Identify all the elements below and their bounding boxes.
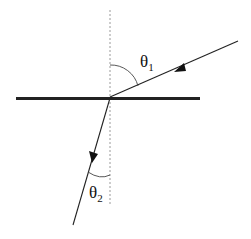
- theta1-label: θ1: [140, 52, 154, 73]
- refracted-ray: [73, 98, 110, 225]
- refraction-diagram: θ1 θ2: [0, 0, 251, 239]
- theta2-arc: [88, 172, 110, 177]
- incident-ray: [110, 41, 238, 97]
- incident-arrow-icon: [174, 63, 186, 72]
- refracted-arrow-icon: [89, 151, 98, 163]
- theta1-arc: [110, 65, 138, 86]
- theta2-label: θ2: [89, 183, 103, 204]
